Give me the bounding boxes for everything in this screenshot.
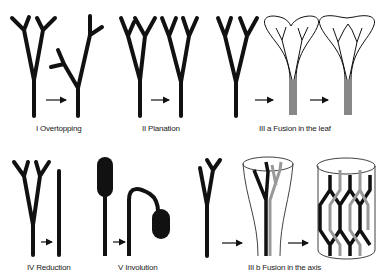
involution-before bbox=[97, 157, 113, 256]
fusion-axis-stage1 bbox=[200, 160, 220, 256]
label-planation: II Planation bbox=[142, 124, 180, 133]
planation-before bbox=[121, 18, 155, 116]
telome-diagram bbox=[0, 0, 383, 280]
overtopping-after bbox=[51, 16, 102, 116]
fusion-axis-stage2 bbox=[243, 157, 293, 256]
fusion-axis-stage3 bbox=[317, 158, 375, 259]
label-reduction: IV Reduction bbox=[27, 263, 70, 272]
planation-after bbox=[162, 18, 197, 116]
label-fusion-axis: III b Fusion in the axis bbox=[248, 263, 321, 272]
involution-after bbox=[129, 189, 170, 256]
fusion-leaf-stage1 bbox=[218, 18, 257, 116]
label-involution: V Involution bbox=[118, 263, 157, 272]
reduction-before bbox=[14, 162, 49, 255]
overtopping-before bbox=[12, 17, 55, 116]
label-fusion-leaf: III a Fusion in the leaf bbox=[259, 124, 331, 133]
label-overtopping: I Overtopping bbox=[36, 124, 81, 133]
